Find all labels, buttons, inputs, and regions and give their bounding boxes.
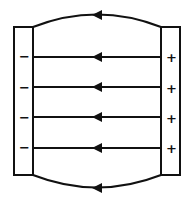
negative-charge-label: − (19, 110, 30, 125)
arrow-left-icon (92, 112, 102, 122)
negative-charge-label: − (19, 49, 30, 64)
positive-charge-label: + (166, 50, 177, 65)
negative-charge-label: − (19, 80, 30, 95)
arrow-left-icon (92, 82, 102, 92)
capacitor-field-diagram: − − − − + + + + (0, 0, 196, 206)
field-line (33, 82, 161, 92)
field-line (33, 112, 161, 122)
arrow-left-icon (92, 183, 102, 193)
arrow-left-icon (92, 143, 102, 153)
positive-charge-label: + (166, 111, 177, 126)
negative-charge-label: − (19, 140, 30, 155)
positive-charge-label: + (166, 141, 177, 156)
arrow-left-icon (92, 52, 102, 62)
positive-charge-label: + (166, 81, 177, 96)
arrow-left-icon (92, 10, 102, 20)
field-line (33, 52, 161, 62)
field-line (33, 143, 161, 153)
